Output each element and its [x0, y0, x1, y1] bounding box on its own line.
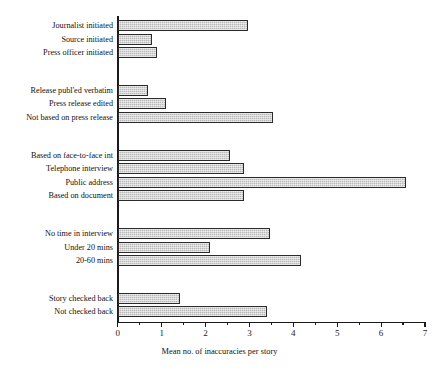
bar: [118, 98, 166, 109]
x-tick-major: [205, 322, 206, 327]
category-label-row: No time in interview: [0, 229, 117, 238]
bar: [118, 177, 406, 188]
x-tick-label: 2: [196, 328, 216, 338]
category-label: Story checked back: [5, 294, 117, 303]
bar: [118, 47, 157, 58]
category-label-row: Journalist initiated: [0, 21, 117, 30]
category-label: Release publ'ed verbatim: [5, 86, 117, 95]
x-tick-label: 5: [327, 328, 347, 338]
bar: [118, 306, 267, 317]
category-label-row: Based on face-to-face int: [0, 151, 117, 160]
category-label: Press release edited: [5, 99, 117, 108]
bar: [118, 34, 152, 45]
x-tick-label: 6: [371, 328, 391, 338]
category-label: 20-60 mins: [5, 256, 117, 265]
bar: [118, 150, 230, 161]
bar: [118, 242, 210, 253]
x-tick-minor: [271, 322, 272, 325]
x-tick-major: [117, 322, 118, 327]
x-tick-label: 7: [415, 328, 435, 338]
x-tick-label: 3: [239, 328, 259, 338]
bar: [118, 255, 301, 266]
x-tick-minor: [139, 322, 140, 325]
category-label: Based on document: [5, 191, 117, 200]
category-label: No time in interview: [5, 229, 117, 238]
category-label: Public address: [5, 178, 117, 187]
x-tick-minor: [227, 322, 228, 325]
bar: [118, 228, 270, 239]
category-label-row: Press officer initiated: [0, 48, 117, 57]
x-tick-major: [337, 322, 338, 327]
category-label-row: 20-60 mins: [0, 256, 117, 265]
bar: [118, 85, 148, 96]
category-label: Press officer initiated: [5, 48, 117, 57]
category-label-row: Press release edited: [0, 99, 117, 108]
x-tick-minor: [315, 322, 316, 325]
category-label: Journalist initiated: [5, 21, 117, 30]
category-label: Based on face-to-face int: [5, 151, 117, 160]
bar-chart: 01234567 Journalist initiatedSource init…: [0, 0, 439, 378]
x-tick-minor: [359, 322, 360, 325]
x-tick-label: 0: [108, 328, 128, 338]
category-label-row: Source initiated: [0, 35, 117, 44]
x-tick-minor: [183, 322, 184, 325]
category-label-row: Not checked back: [0, 307, 117, 316]
category-label: Not checked back: [5, 307, 117, 316]
category-label-row: Under 20 mins: [0, 243, 117, 252]
x-axis-title: Mean no. of inaccuracies per story: [0, 347, 439, 357]
category-label: Telephone interview: [5, 164, 117, 173]
bar: [118, 293, 180, 304]
plot-area: 01234567 Journalist initiatedSource init…: [0, 0, 439, 378]
x-tick-major: [293, 322, 294, 327]
category-label: Under 20 mins: [5, 243, 117, 252]
category-label-row: Public address: [0, 178, 117, 187]
x-tick-minor: [402, 322, 403, 325]
category-label-row: Story checked back: [0, 294, 117, 303]
x-tick-major: [249, 322, 250, 327]
bar: [118, 20, 248, 31]
x-tick-label: 1: [152, 328, 172, 338]
category-label: Source initiated: [5, 35, 117, 44]
bar: [118, 163, 244, 174]
category-label-row: Telephone interview: [0, 164, 117, 173]
category-label-row: Based on document: [0, 191, 117, 200]
category-label-row: Not based on press release: [0, 113, 117, 122]
category-label: Not based on press release: [5, 113, 117, 122]
bar: [118, 190, 244, 201]
x-tick-major: [424, 322, 425, 327]
x-tick-major: [161, 322, 162, 327]
x-tick-label: 4: [283, 328, 303, 338]
x-tick-major: [381, 322, 382, 327]
category-label-row: Release publ'ed verbatim: [0, 86, 117, 95]
bar: [118, 112, 273, 123]
